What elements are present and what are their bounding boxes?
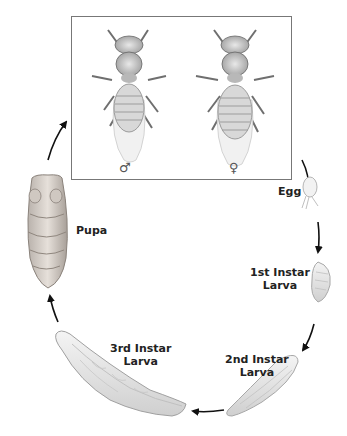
female-symbol: ♀ <box>229 160 239 175</box>
egg-illustration <box>302 177 318 209</box>
first-instar-label: 1st Instar Larva <box>250 266 310 292</box>
second-instar-label: 2nd Instar Larva <box>225 353 289 379</box>
arrow-first-to-second <box>303 324 314 350</box>
pupa-label: Pupa <box>76 224 107 237</box>
third-instar-label: 3rd Instar Larva <box>110 342 171 368</box>
pupa-illustration <box>28 175 67 288</box>
arrow-egg-to-first <box>318 222 319 252</box>
first-instar-illustration <box>312 262 331 302</box>
arrow-second-to-third <box>193 410 224 412</box>
arrow-third-to-pupa <box>50 296 58 322</box>
egg-label: Egg <box>278 185 301 198</box>
life-cycle-diagram: ♂ ♀ Egg 1st Instar Larva 2nd Instar Larv… <box>0 0 347 436</box>
male-symbol: ♂ <box>119 160 131 175</box>
arrow-pupa-to-adult <box>48 122 66 160</box>
adult-flies-box <box>71 16 292 180</box>
